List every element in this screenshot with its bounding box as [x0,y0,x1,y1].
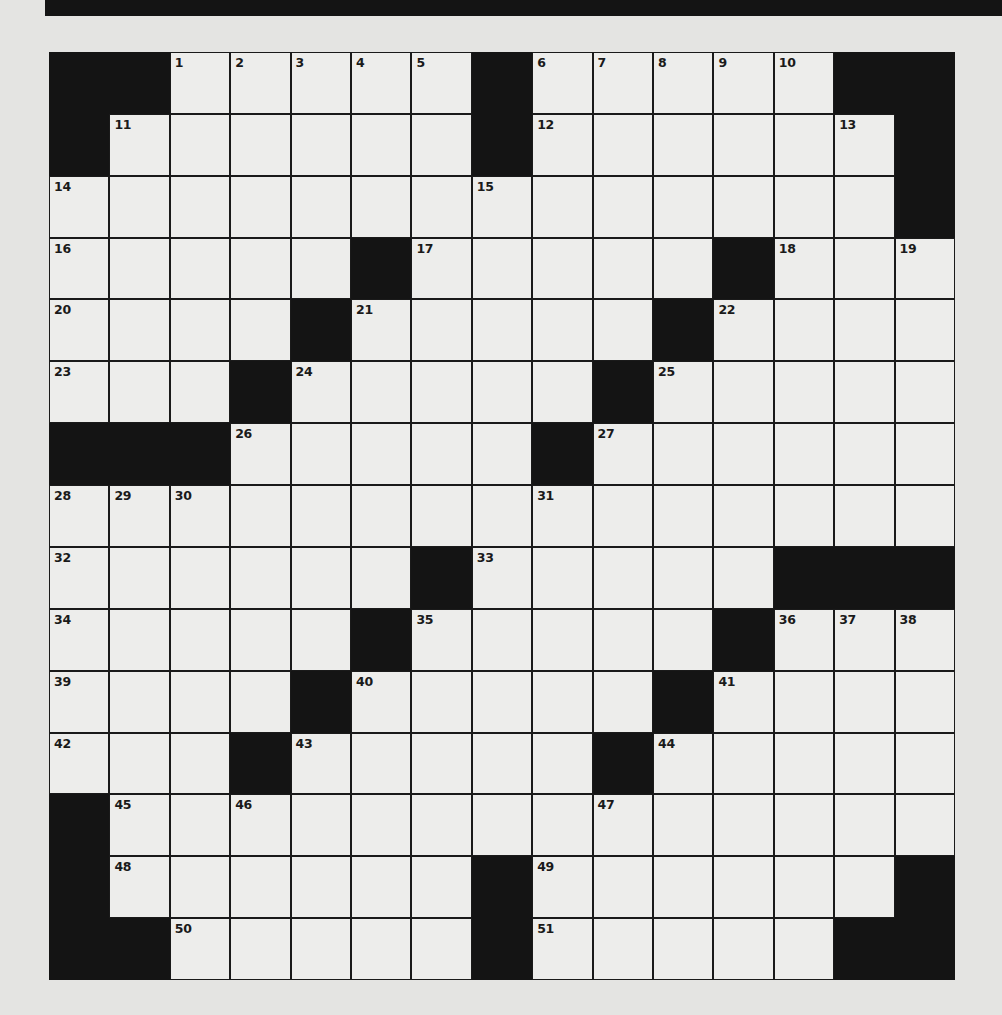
crossword-cell[interactable] [230,671,290,733]
crossword-cell[interactable] [351,733,411,795]
crossword-cell[interactable] [291,176,351,238]
crossword-cell[interactable] [351,856,411,918]
crossword-cell[interactable] [653,918,713,980]
crossword-cell[interactable] [109,609,169,671]
crossword-cell[interactable]: 28 [49,485,109,547]
crossword-cell[interactable]: 44 [653,733,713,795]
crossword-cell[interactable] [834,299,894,361]
crossword-cell[interactable] [774,671,834,733]
crossword-cell[interactable] [411,671,471,733]
crossword-cell[interactable]: 15 [472,176,532,238]
crossword-cell[interactable]: 1 [170,52,230,114]
crossword-cell[interactable]: 21 [351,299,411,361]
crossword-cell[interactable] [291,485,351,547]
crossword-cell[interactable]: 23 [49,361,109,423]
crossword-cell[interactable]: 26 [230,423,290,485]
crossword-cell[interactable]: 24 [291,361,351,423]
crossword-cell[interactable] [291,609,351,671]
crossword-cell[interactable] [713,856,773,918]
crossword-cell[interactable] [653,176,713,238]
crossword-cell[interactable] [895,671,955,733]
crossword-cell[interactable] [291,114,351,176]
crossword-cell[interactable] [593,299,653,361]
crossword-cell[interactable] [109,176,169,238]
crossword-cell[interactable] [291,547,351,609]
crossword-cell[interactable] [834,485,894,547]
crossword-cell[interactable] [109,238,169,300]
crossword-cell[interactable] [653,485,713,547]
crossword-cell[interactable] [291,856,351,918]
crossword-cell[interactable]: 47 [593,794,653,856]
crossword-cell[interactable] [230,547,290,609]
crossword-cell[interactable] [230,238,290,300]
crossword-cell[interactable] [895,299,955,361]
crossword-cell[interactable] [774,361,834,423]
crossword-cell[interactable] [472,733,532,795]
crossword-cell[interactable] [895,794,955,856]
crossword-cell[interactable]: 32 [49,547,109,609]
crossword-cell[interactable]: 30 [170,485,230,547]
crossword-cell[interactable] [834,733,894,795]
crossword-cell[interactable]: 39 [49,671,109,733]
crossword-cell[interactable] [774,856,834,918]
crossword-cell[interactable] [472,423,532,485]
crossword-cell[interactable] [774,176,834,238]
crossword-cell[interactable] [713,485,773,547]
crossword-cell[interactable] [532,733,592,795]
crossword-cell[interactable]: 10 [774,52,834,114]
crossword-cell[interactable] [593,918,653,980]
crossword-cell[interactable] [532,671,592,733]
crossword-cell[interactable] [411,918,471,980]
crossword-cell[interactable] [834,176,894,238]
crossword-cell[interactable]: 41 [713,671,773,733]
crossword-cell[interactable] [170,794,230,856]
crossword-cell[interactable]: 35 [411,609,471,671]
crossword-cell[interactable] [532,609,592,671]
crossword-cell[interactable] [291,238,351,300]
crossword-cell[interactable] [472,609,532,671]
crossword-cell[interactable] [895,361,955,423]
crossword-cell[interactable] [774,733,834,795]
crossword-cell[interactable] [713,423,773,485]
crossword-cell[interactable] [593,176,653,238]
crossword-cell[interactable] [170,361,230,423]
crossword-cell[interactable] [593,547,653,609]
crossword-cell[interactable] [472,238,532,300]
crossword-cell[interactable]: 37 [834,609,894,671]
crossword-cell[interactable] [109,733,169,795]
crossword-cell[interactable] [593,609,653,671]
crossword-cell[interactable] [472,485,532,547]
crossword-cell[interactable] [532,176,592,238]
crossword-cell[interactable] [713,918,773,980]
crossword-cell[interactable] [774,918,834,980]
crossword-cell[interactable]: 29 [109,485,169,547]
crossword-cell[interactable]: 25 [653,361,713,423]
crossword-cell[interactable] [472,794,532,856]
crossword-cell[interactable]: 16 [49,238,109,300]
crossword-cell[interactable]: 18 [774,238,834,300]
crossword-cell[interactable] [895,733,955,795]
crossword-cell[interactable]: 9 [713,52,773,114]
crossword-cell[interactable] [532,794,592,856]
crossword-cell[interactable] [351,423,411,485]
crossword-cell[interactable] [291,794,351,856]
crossword-cell[interactable] [230,176,290,238]
crossword-cell[interactable] [774,794,834,856]
crossword-cell[interactable] [411,794,471,856]
crossword-cell[interactable] [170,671,230,733]
crossword-cell[interactable] [895,423,955,485]
crossword-cell[interactable] [411,299,471,361]
crossword-cell[interactable] [653,609,713,671]
crossword-cell[interactable]: 49 [532,856,592,918]
crossword-cell[interactable]: 43 [291,733,351,795]
crossword-cell[interactable] [532,547,592,609]
crossword-cell[interactable]: 2 [230,52,290,114]
crossword-cell[interactable]: 50 [170,918,230,980]
crossword-cell[interactable]: 48 [109,856,169,918]
crossword-cell[interactable] [472,361,532,423]
crossword-cell[interactable] [411,114,471,176]
crossword-cell[interactable] [109,671,169,733]
crossword-cell[interactable] [351,547,411,609]
crossword-cell[interactable] [351,485,411,547]
crossword-cell[interactable] [593,485,653,547]
